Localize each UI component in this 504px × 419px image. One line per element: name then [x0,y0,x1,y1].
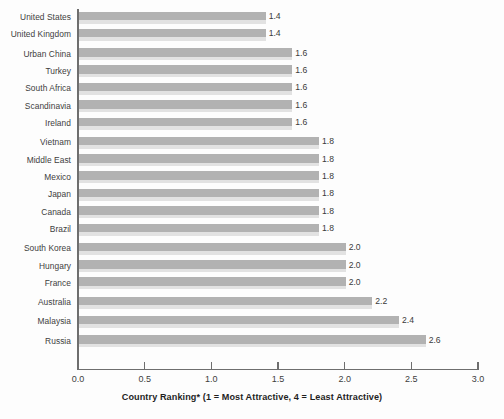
value-label: 2.0 [349,276,361,289]
category-label: France [0,275,71,292]
value-label: 1.8 [322,170,334,183]
plot-area: United States1.4United Kingdom1.4Urban C… [0,0,504,371]
bar-fill [79,224,319,233]
bar-shadow [79,232,319,236]
bar-shadow [79,324,399,328]
bar-fill [79,206,319,215]
category-label: United Kingdom [0,26,71,43]
axis-tick [77,362,78,370]
axis-tick-label: 1.5 [258,374,298,384]
bar [79,260,346,272]
bar-row: United States1.4 [0,9,504,26]
bar [79,189,319,201]
category-label: Middle East [0,152,71,169]
axis-tick [344,362,345,370]
bar-fill [79,12,266,21]
value-label: 1.4 [269,10,281,23]
category-label: Malaysia [0,313,71,330]
bar-row: Australia2.2 [0,294,504,311]
bar-fill [79,335,426,344]
bar-shadow [79,163,319,167]
bar-shadow [79,305,372,309]
value-label: 1.6 [295,116,307,129]
bar [79,29,266,41]
x-axis-caption: Country Ranking* (1 = Most Attractive, 4… [0,392,504,402]
value-label: 1.6 [295,64,307,77]
bar-shadow [79,215,319,219]
bar-fill [79,48,292,57]
bar [79,154,319,166]
value-label: 1.8 [322,135,334,148]
bar [79,297,372,309]
value-label: 2.0 [349,241,361,254]
bar-shadow [79,180,319,184]
bar-fill [79,316,399,325]
bar-shadow [79,197,319,201]
bar-fill [79,260,346,269]
axis-tick [477,362,478,370]
bar [79,277,346,289]
axis-tick-label: 2.0 [325,374,365,384]
value-label: 2.0 [349,259,361,272]
category-label: Vietnam [0,134,71,151]
value-label: 2.4 [402,314,414,327]
value-label: 1.8 [322,222,334,235]
bar-fill [79,65,292,74]
bar-shadow [79,91,292,95]
value-label: 1.8 [322,187,334,200]
category-label: Russia [0,333,71,350]
bar-fill [79,83,292,92]
bar [79,83,292,95]
bar-fill [79,297,372,306]
value-label: 1.6 [295,99,307,112]
bar [79,12,266,24]
bar-shadow [79,126,292,130]
category-label: Mexico [0,169,71,186]
bar-shadow [79,269,346,273]
bar-shadow [79,251,346,255]
category-label: Japan [0,186,71,203]
category-label: Urban China [0,46,71,63]
bar-row: Canada1.8 [0,204,504,221]
axis-tick [411,362,412,370]
category-label: Scandinavia [0,98,71,115]
bar [79,48,292,60]
bar-row: Japan1.8 [0,186,504,203]
bar-row: Middle East1.8 [0,152,504,169]
bar-shadow [79,57,292,61]
bar-row: Malaysia2.4 [0,313,504,330]
axis-tick [277,362,278,370]
bar-shadow [79,344,426,348]
bar [79,335,426,347]
category-label: Australia [0,294,71,311]
bar-row: Mexico1.8 [0,169,504,186]
bar-shadow [79,74,292,78]
bar [79,171,319,183]
bar-fill [79,118,292,127]
value-label: 1.6 [295,47,307,60]
category-label: Turkey [0,63,71,80]
category-label: South Africa [0,80,71,97]
axis-tick [144,362,145,370]
category-label: United States [0,9,71,26]
bar [79,100,292,112]
bar [79,118,292,130]
bar-fill [79,189,319,198]
category-label: South Korea [0,240,71,257]
bar-row: Ireland1.6 [0,115,504,132]
bar [79,316,399,328]
value-label: 1.4 [269,27,281,40]
axis-tick-label: 0.0 [58,374,98,384]
bar-row: Vietnam1.8 [0,134,504,151]
value-label: 1.6 [295,81,307,94]
bar-fill [79,29,266,38]
bar-shadow [79,20,266,24]
axis-tick-label: 1.0 [191,374,231,384]
bar [79,137,319,149]
value-label: 1.8 [322,205,334,218]
bar-fill [79,171,319,180]
bar-shadow [79,145,319,149]
bar [79,243,346,255]
bar-row: Scandinavia1.6 [0,98,504,115]
category-label: Brazil [0,221,71,238]
